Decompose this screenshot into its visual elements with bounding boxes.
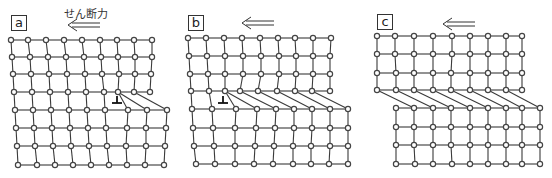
dislocation-slip-diagram: a b c せん断力 <box>0 0 552 178</box>
shear-force-arrows <box>68 17 475 31</box>
shear-force-label: せん断力 <box>64 5 108 21</box>
panel-label-b: b <box>188 15 204 31</box>
lattice-figure <box>0 0 552 178</box>
panel-label-a: a <box>11 15 27 31</box>
panel-label-c: c <box>377 14 393 30</box>
